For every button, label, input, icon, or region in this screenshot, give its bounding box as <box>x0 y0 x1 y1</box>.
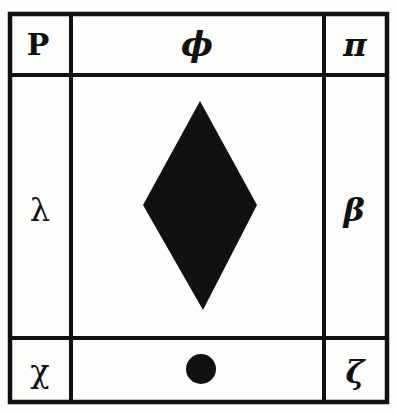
filled-diamond-icon <box>143 101 257 310</box>
filled-dot-icon <box>186 354 216 384</box>
cell-bottom-right-zeta: ζ <box>346 356 365 388</box>
cell-middle-right-beta: β <box>343 194 364 226</box>
cell-bottom-left-chi: χ <box>30 355 49 387</box>
cell-top-left-letter-p: P <box>27 30 50 60</box>
cell-middle-left-lambda: λ <box>30 194 50 226</box>
cell-top-right-pi: π <box>343 29 366 61</box>
cell-top-center-phi: ϕ <box>181 27 213 61</box>
symbol-grid-diagram: P ϕ π λ β χ ζ <box>0 0 396 412</box>
